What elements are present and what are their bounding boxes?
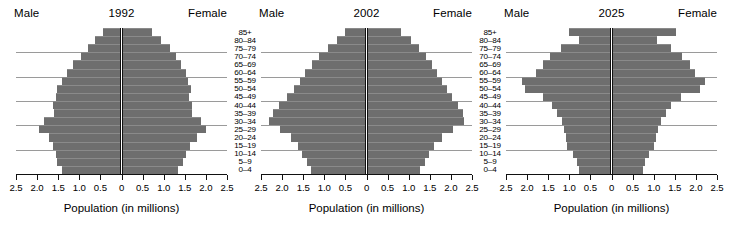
bar-male-30–34 (269, 117, 366, 125)
bar-female-45–49 (612, 93, 682, 101)
bar-male-60–64 (536, 69, 611, 77)
x-tick (185, 175, 186, 180)
bar-female-45–49 (122, 93, 190, 101)
x-tick (696, 175, 697, 180)
bar-male-25–29 (280, 125, 367, 133)
bar-male-70–74 (319, 52, 366, 60)
age-group-label: 0–4 (225, 166, 265, 174)
x-tick (367, 175, 368, 180)
bar-male-65–69 (312, 60, 367, 68)
bar-female-30–34 (122, 117, 201, 125)
bar-female-70–74 (122, 52, 176, 60)
bar-male-20–24 (566, 133, 612, 141)
bar-female-35–39 (367, 109, 463, 117)
center-axis-line (120, 28, 123, 174)
x-tick-label: 2.5 (705, 182, 729, 193)
bar-male-85+ (103, 28, 122, 36)
bar-female-60–64 (367, 69, 438, 77)
x-tick (303, 175, 304, 180)
pyramid-panel-2002: Male2002Female2.52.01.51.00.500.51.01.52… (245, 0, 488, 227)
bar-male-50–54 (525, 85, 612, 93)
bar-male-45–49 (287, 93, 366, 101)
bar-male-50–54 (294, 85, 367, 93)
bar-male-15–19 (298, 142, 366, 150)
x-tick (654, 175, 655, 180)
x-tick (633, 175, 634, 180)
bar-female-65–69 (122, 60, 182, 68)
bar-male-80–84 (579, 36, 612, 44)
bar-female-0–4 (612, 166, 644, 174)
center-axis-line (365, 28, 368, 174)
bar-female-5–9 (367, 158, 425, 166)
bar-female-60–64 (612, 69, 696, 77)
bar-female-15–19 (367, 142, 435, 150)
bar-female-70–74 (367, 52, 427, 60)
bar-female-10–14 (612, 150, 650, 158)
bar-male-25–29 (564, 125, 611, 133)
bar-female-10–14 (367, 150, 429, 158)
bar-male-75–79 (328, 44, 367, 52)
bar-female-30–34 (367, 117, 465, 125)
bar-female-75–79 (612, 44, 672, 52)
bar-male-35–39 (557, 109, 611, 117)
bar-male-0–4 (579, 166, 612, 174)
center-axis-line (610, 28, 613, 174)
bar-female-30–34 (612, 117, 662, 125)
bar-male-15–19 (53, 142, 121, 150)
bar-female-50–54 (612, 85, 701, 93)
x-tick (282, 175, 283, 180)
legend-female-label: Female (188, 7, 227, 19)
bar-female-40–44 (612, 101, 672, 109)
x-tick (527, 175, 528, 180)
bar-female-35–39 (612, 109, 666, 117)
bar-female-65–69 (612, 60, 690, 68)
plot-area (16, 28, 227, 174)
bar-male-15–19 (567, 142, 611, 150)
bar-female-5–9 (612, 158, 646, 166)
bar-male-70–74 (550, 52, 611, 60)
bar-female-55–59 (612, 77, 706, 85)
bar-male-60–64 (67, 69, 122, 77)
bar-female-40–44 (367, 101, 459, 109)
x-tick (324, 175, 325, 180)
x-axis (506, 174, 717, 182)
bar-male-45–49 (56, 93, 121, 101)
bar-female-25–29 (122, 125, 206, 133)
x-tick (58, 175, 59, 180)
x-tick (430, 175, 431, 180)
x-tick (388, 175, 389, 180)
x-tick (100, 175, 101, 180)
bar-female-20–24 (367, 133, 442, 141)
bar-male-35–39 (54, 109, 122, 117)
bar-female-80–84 (612, 36, 658, 44)
bar-female-60–64 (122, 69, 186, 77)
bar-female-15–19 (612, 142, 654, 150)
bar-male-75–79 (561, 44, 612, 52)
bar-male-10–14 (302, 150, 366, 158)
x-tick (590, 175, 591, 180)
legend-female-label: Female (678, 7, 717, 19)
panel-header: Male2002Female (245, 7, 488, 23)
pyramid-panel-2025: Male2025Female2.52.01.51.00.500.51.01.52… (490, 0, 730, 227)
x-tick (345, 175, 346, 180)
x-tick-label: 2.5 (215, 182, 239, 193)
bar-female-25–29 (612, 125, 658, 133)
bar-female-70–74 (612, 52, 683, 60)
bar-male-40–44 (279, 101, 367, 109)
bar-male-80–84 (95, 36, 121, 44)
bar-male-0–4 (62, 166, 121, 174)
bar-male-5–9 (577, 158, 612, 166)
bar-female-75–79 (122, 44, 171, 52)
bar-female-20–24 (612, 133, 656, 141)
x-axis (261, 174, 472, 182)
x-tick (37, 175, 38, 180)
bar-male-20–24 (49, 133, 122, 141)
x-tick-labels: 2.52.01.51.00.500.51.01.52.02.5 (0, 182, 243, 196)
plot-area (506, 28, 717, 174)
bar-male-60–64 (305, 69, 366, 77)
age-group-axis-1: 85+80–8475–7970–7465–6960–6455–5950–5445… (225, 28, 265, 178)
bar-female-35–39 (122, 109, 192, 117)
x-tick (409, 175, 410, 180)
bar-female-45–49 (367, 93, 452, 101)
x-tick (164, 175, 165, 180)
